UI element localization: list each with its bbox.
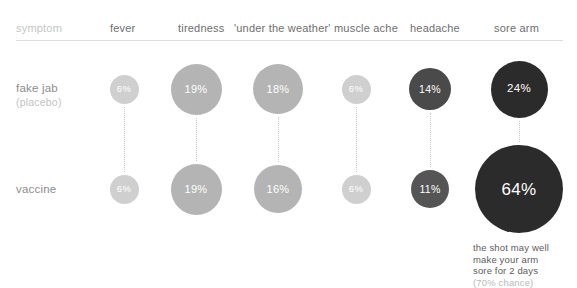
row-label-vaccine: vaccine [16, 183, 56, 195]
bubble-value-label: 6% [117, 184, 131, 194]
bubble-fake_jab-muscle_ache[interactable]: 6% [342, 75, 371, 104]
bubble-vaccine-weather[interactable]: 16% [254, 165, 302, 213]
bubble-fake_jab-tiredness[interactable]: 19% [171, 64, 222, 115]
bubble-value-label: 16% [267, 184, 290, 195]
bubble-vaccine-muscle_ache[interactable]: 6% [342, 175, 371, 204]
bubble-fake_jab-sore_arm[interactable]: 24% [491, 61, 548, 118]
bubble-vaccine-fever[interactable]: 6% [110, 175, 139, 204]
annotation-line-2: make your arm [473, 254, 549, 266]
row-sublabel-placebo: (placebo) [16, 96, 62, 108]
bubble-fake_jab-fever[interactable]: 6% [110, 75, 139, 104]
bubble-value-label: 19% [185, 84, 208, 95]
bubble-value-label: 19% [185, 184, 208, 195]
column-header-under-the-weather: 'under the weather' [234, 22, 331, 34]
column-header-fever: fever [110, 22, 135, 34]
annotation-sore-arm: the shot may well make your arm sore for… [473, 242, 549, 288]
bubble-vaccine-headache[interactable]: 11% [411, 170, 449, 208]
annotation-note: (70% chance) [473, 277, 549, 288]
header-divider [16, 40, 563, 41]
bubble-value-label: 11% [419, 184, 440, 195]
bubble-vaccine-sore_arm[interactable]: 64% [475, 145, 563, 233]
connector-tiredness [196, 118, 198, 161]
column-header-symptom: symptom [16, 22, 62, 34]
bubble-value-label: 6% [349, 184, 363, 194]
annotation-line-1: the shot may well [473, 242, 549, 254]
bubble-fake_jab-weather[interactable]: 18% [253, 64, 303, 114]
connector-headache [430, 113, 432, 167]
connector-fever [124, 107, 126, 172]
bubble-value-label: 14% [419, 84, 441, 95]
bubble-value-label: 6% [349, 84, 363, 94]
connector-weather [278, 117, 280, 162]
column-header-tiredness: tiredness [178, 22, 224, 34]
connector-muscle_ache [356, 107, 358, 172]
bubble-value-label: 64% [502, 181, 537, 198]
bubble-value-label: 18% [267, 84, 290, 95]
annotation-line-3: sore for 2 days [473, 265, 549, 277]
bubble-value-label: 24% [507, 83, 531, 95]
column-header-sore-arm: sore arm [494, 22, 539, 34]
bubble-value-label: 6% [117, 84, 131, 94]
column-header-headache: headache [410, 22, 460, 34]
connector-sore_arm [519, 121, 521, 143]
column-header-muscle-ache: muscle ache [334, 22, 398, 34]
bubble-fake_jab-headache[interactable]: 14% [409, 68, 451, 110]
row-label-fake-jab: fake jab [16, 82, 58, 94]
bubble-vaccine-tiredness[interactable]: 19% [171, 164, 222, 215]
